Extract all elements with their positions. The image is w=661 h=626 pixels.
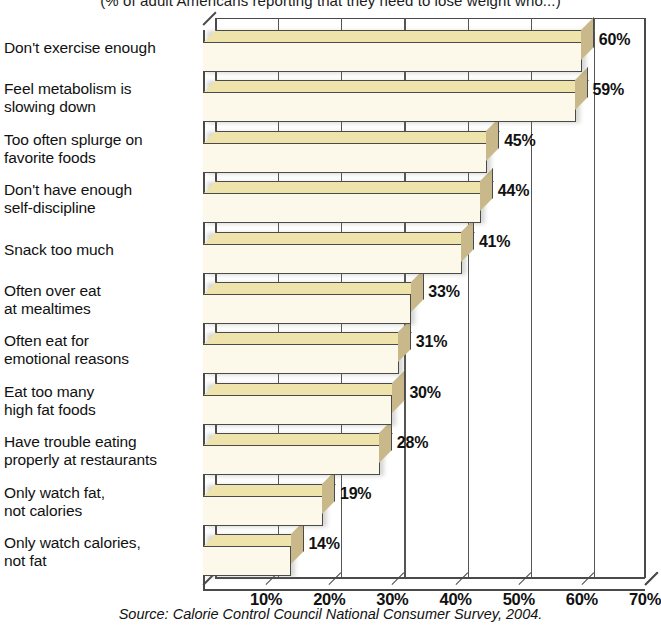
value-label-0: 60%: [599, 31, 630, 49]
category-label-line: slowing down: [4, 98, 200, 116]
value-label-5: 33%: [428, 283, 459, 301]
category-label-line: Snack too much: [4, 241, 200, 259]
bar-10: [203, 534, 291, 564]
bar-front-face: [203, 193, 481, 223]
category-label-line: Eat too many: [4, 383, 200, 401]
value-label-6: 31%: [416, 333, 447, 351]
category-label-line: not calories: [4, 502, 200, 520]
value-label-1: 59%: [593, 81, 624, 99]
x-axis-back-line: [215, 577, 645, 579]
category-label-line: Often eat for: [4, 332, 200, 350]
category-label-8: Have trouble eatingproperly at restauran…: [4, 433, 200, 469]
chart-plot-area: 60%59%45%44%41%33%31%30%28%19%14% Don't …: [0, 0, 661, 626]
bar-8: [203, 433, 380, 463]
category-label-line: Too often splurge on: [4, 131, 200, 149]
category-label-line: Don't exercise enough: [4, 39, 200, 57]
value-label-9: 19%: [340, 485, 371, 503]
category-label-line: Often over eat: [4, 282, 200, 300]
x-axis-right-boundary: [644, 18, 646, 578]
category-label-line: self-discipline: [4, 199, 200, 217]
category-label-line: high fat foods: [4, 401, 200, 419]
category-label-line: emotional reasons: [4, 350, 200, 368]
category-label-0: Don't exercise enough: [4, 39, 200, 57]
bar-front-face: [203, 42, 582, 72]
category-label-1: Feel metabolism isslowing down: [4, 80, 200, 116]
category-label-line: Don't have enough: [4, 181, 200, 199]
source-note: Source: Calorie Control Council National…: [0, 606, 661, 622]
bar-1: [203, 80, 576, 110]
category-label-line: Feel metabolism is: [4, 80, 200, 98]
category-label-line: Only watch fat,: [4, 484, 200, 502]
bar-front-face: [203, 395, 392, 425]
tick-mark-70: [645, 572, 658, 585]
category-label-2: Too often splurge onfavorite foods: [4, 131, 200, 167]
bar-3: [203, 181, 481, 211]
category-label-line: at mealtimes: [4, 300, 200, 318]
bar-2: [203, 131, 487, 161]
value-label-10: 14%: [308, 535, 339, 553]
category-label-line: properly at restaurants: [4, 451, 200, 469]
bar-front-face: [203, 143, 487, 173]
bar-5: [203, 282, 411, 312]
bar-front-face: [203, 496, 323, 526]
bar-front-face: [203, 546, 291, 576]
value-label-4: 41%: [479, 233, 510, 251]
bar-4: [203, 232, 462, 262]
category-label-line: Have trouble eating: [4, 433, 200, 451]
category-label-line: Only watch calories,: [4, 534, 200, 552]
bar-front-face: [203, 92, 576, 122]
bar-front-face: [203, 244, 462, 274]
gridline-60: [594, 18, 595, 577]
bar-6: [203, 332, 399, 362]
bar-front-face: [203, 445, 380, 475]
bar-0: [203, 30, 582, 60]
bar-7: [203, 383, 392, 413]
category-label-3: Don't have enoughself-discipline: [4, 181, 200, 217]
category-label-line: not fat: [4, 552, 200, 570]
category-label-7: Eat too manyhigh fat foods: [4, 383, 200, 419]
category-label-9: Only watch fat,not calories: [4, 484, 200, 520]
category-label-6: Often eat foremotional reasons: [4, 332, 200, 368]
value-label-2: 45%: [504, 132, 535, 150]
bar-front-face: [203, 294, 411, 324]
category-label-4: Snack too much: [4, 241, 200, 259]
value-label-7: 30%: [409, 384, 440, 402]
value-label-3: 44%: [498, 182, 529, 200]
value-label-8: 28%: [397, 434, 428, 452]
bar-9: [203, 484, 323, 514]
category-label-10: Only watch calories,not fat: [4, 534, 200, 570]
category-label-line: favorite foods: [4, 149, 200, 167]
category-label-5: Often over eatat mealtimes: [4, 282, 200, 318]
bar-front-face: [203, 344, 399, 374]
